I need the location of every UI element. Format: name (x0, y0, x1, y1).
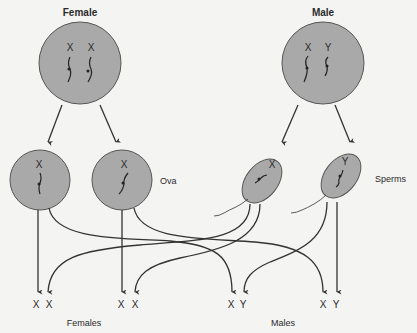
offspring-females: X X X X Females (33, 299, 139, 328)
ovum-1-chromosome: X (36, 159, 43, 170)
female-offspring-2-chr-2: X (132, 299, 139, 310)
sperms-label: Sperms (375, 174, 407, 184)
meiosis-arrows (48, 105, 350, 142)
female-parent-label: Female (63, 7, 98, 18)
male-offspring-2-chr-2: Y (333, 299, 340, 310)
female-offspring-1-chr-1: X (33, 299, 40, 310)
female-chromosome-2: X (88, 42, 95, 53)
male-offspring-2-chr-1: X (320, 299, 327, 310)
male-chromosome-y: Y (325, 42, 332, 53)
female-offspring-1-chr-2: X (46, 299, 53, 310)
female-parent-cell: X X (39, 22, 121, 104)
offspring-males: X Y X Y Males (228, 299, 340, 328)
females-label: Females (67, 318, 102, 328)
ovum-2: X (92, 150, 152, 210)
sperm-x-chromosome: X (269, 159, 276, 170)
sperm-x: X (214, 151, 290, 216)
males-label: Males (271, 318, 296, 328)
sperm-y-chromosome: Y (342, 156, 349, 167)
male-offspring-1-chr-1: X (228, 299, 235, 310)
female-offspring-2-chr-1: X (118, 299, 125, 310)
fertilization-paths (38, 202, 337, 292)
ovum-1: X (10, 150, 70, 210)
ovum-2-chromosome: X (121, 159, 128, 170)
female-chromosome-1: X (67, 42, 74, 53)
male-parent-label: Male (312, 7, 335, 18)
ova-label: Ova (160, 176, 177, 186)
male-offspring-1-chr-2: Y (240, 299, 247, 310)
male-chromosome-x: X (305, 42, 312, 53)
male-parent-cell: X Y (282, 22, 364, 104)
sperm-y: Y (291, 146, 369, 213)
